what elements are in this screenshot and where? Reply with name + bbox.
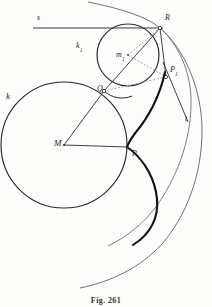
label-circle-k1: k1: [76, 42, 82, 52]
label-point-R: R: [165, 14, 170, 22]
figure-root: s k k1 m1 M Q R P P1 t Fig. 261: [0, 0, 212, 307]
point-marker-M: [63, 144, 65, 146]
point-marker-R: [158, 26, 161, 29]
label-line-s: s: [37, 14, 40, 22]
point-marker-P1: [164, 75, 167, 78]
figure-caption: Fig. 261: [0, 296, 212, 305]
label-point-P1: P1: [170, 66, 178, 76]
label-center-M: M: [54, 139, 62, 148]
label-circle-k: k: [6, 92, 10, 101]
geometry-canvas: [0, 0, 212, 307]
label-center-m1: m1: [116, 51, 125, 61]
label-tangent-t: t: [185, 115, 187, 123]
label-center-m1-base: m: [116, 50, 122, 59]
arc-near-Q: [104, 91, 132, 98]
dashed-Q-P1: [104, 77, 166, 91]
chord-QR: [104, 28, 160, 91]
point-marker-P: [126, 146, 129, 149]
radius-MP: [64, 145, 127, 147]
thick-curve-upper: [127, 72, 165, 147]
chord-RP1: [160, 28, 166, 77]
thick-curve-tail: [133, 240, 140, 245]
dashed-m1-P1: [128, 55, 166, 77]
point-marker-m1: [127, 54, 129, 56]
label-point-P1-subscript: 1: [175, 71, 178, 77]
dashed-m1-R: [128, 28, 160, 55]
label-point-P: P: [132, 150, 137, 158]
radius-MQ: [64, 91, 104, 145]
thick-curve-lower: [127, 147, 157, 240]
label-point-Q: Q: [97, 85, 103, 93]
label-circle-k1-subscript: 1: [80, 47, 83, 53]
label-center-m1-subscript: 1: [122, 56, 125, 62]
